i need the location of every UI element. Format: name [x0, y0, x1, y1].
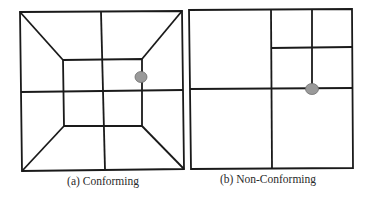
mesh-edge — [142, 11, 182, 59]
caption-non-conforming: (b) Non-Conforming — [220, 173, 316, 185]
mesh-edge — [142, 126, 184, 169]
mesh-edge — [21, 90, 183, 92]
mesh-edge — [271, 10, 272, 169]
mesh-edge — [190, 88, 353, 89]
mesh-panel-b — [189, 9, 353, 169]
caption-conforming: (a) Conforming — [67, 175, 139, 187]
mesh-edge — [20, 12, 63, 60]
mesh-edge — [22, 126, 64, 171]
mesh-panel-a — [20, 11, 184, 171]
hanging-node-marker — [306, 84, 319, 95]
mesh-figure — [0, 0, 373, 198]
hanging-node-marker — [135, 72, 147, 83]
mesh-edge — [271, 47, 352, 48]
